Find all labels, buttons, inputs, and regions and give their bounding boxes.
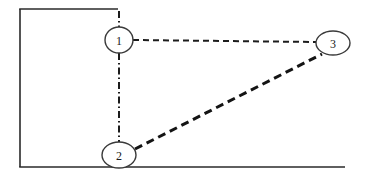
edge-node2-node3 — [135, 54, 322, 149]
node-2-label: 2 — [116, 149, 122, 163]
node-3[interactable]: 3 — [316, 31, 350, 55]
edge-node1-node3 — [133, 40, 316, 42]
node-2[interactable]: 2 — [102, 142, 136, 168]
node-1-label: 1 — [116, 34, 122, 48]
open-rectangle-frame — [19, 9, 345, 167]
node-3-label: 3 — [330, 37, 336, 51]
node-diagram: Three node network diagram 1 — [0, 0, 367, 179]
diagram-canvas: Three node network diagram 1 — [0, 0, 367, 179]
diagram-edges — [119, 11, 322, 149]
node-1[interactable]: 1 — [105, 27, 133, 53]
